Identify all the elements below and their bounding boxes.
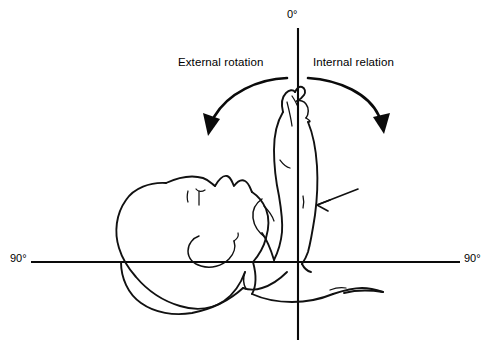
internal-rotation-arc xyxy=(308,78,379,116)
shoulder-contour xyxy=(243,272,287,290)
internal-rotation-label: Internal relation xyxy=(313,56,394,68)
right-ninety-degree-label: 90° xyxy=(464,252,481,264)
eye-crease-left xyxy=(187,191,188,202)
external-rotation-arrow xyxy=(203,78,287,136)
axis-group xyxy=(31,28,460,340)
toe-third xyxy=(306,118,310,122)
zero-degree-label: 0° xyxy=(287,8,298,20)
internal-rotation-arrowhead xyxy=(373,113,390,134)
eye-crease-right xyxy=(196,189,205,191)
external-rotation-label: External rotation xyxy=(178,56,263,68)
left-ninety-degree-label: 90° xyxy=(10,252,27,264)
external-rotation-arrowhead xyxy=(203,113,220,136)
limb-left-contour xyxy=(274,112,283,260)
hip-rotation-figure: External rotation Internal relation 0° 9… xyxy=(0,0,494,353)
limb-indicator-arrow xyxy=(317,189,358,211)
limb-right-lower xyxy=(302,264,311,272)
leg-fold-mark xyxy=(330,288,346,290)
limb-knee-crease xyxy=(280,160,290,168)
extended-leg-lower xyxy=(344,291,383,293)
head-outline xyxy=(116,183,245,309)
foot-arch-crease xyxy=(287,102,292,126)
big-toe xyxy=(295,87,305,101)
torso-lower-contour xyxy=(252,294,333,302)
ear-inner-fold xyxy=(234,233,238,241)
internal-rotation-arrow xyxy=(308,78,390,134)
forehead-contour xyxy=(166,177,215,186)
cheek-jaw-contour xyxy=(252,192,268,262)
brow-nose-contour xyxy=(215,176,252,192)
limb-inner-crease xyxy=(303,196,304,208)
infant-figure xyxy=(116,87,383,314)
limb-indicator-barb-lower xyxy=(317,205,328,211)
limb-right-contour xyxy=(302,122,317,264)
limb-indicator-barb-upper xyxy=(317,200,330,205)
diagram-canvas xyxy=(0,0,494,353)
hip-crease xyxy=(244,272,246,289)
external-rotation-arc xyxy=(214,78,287,117)
